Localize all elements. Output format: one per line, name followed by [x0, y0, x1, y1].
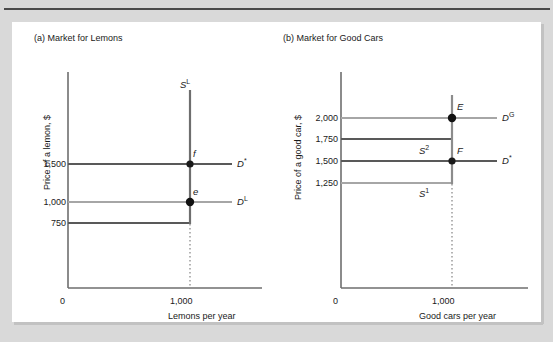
panel-b-xtick-1000: 1,000 [432, 296, 455, 306]
panel-b-point-label-E: E [457, 101, 463, 112]
panel-b-demand-good-label: DG [502, 111, 514, 123]
panel-b-point-label-F: F [457, 145, 463, 156]
panel-b-supply2-label: S2 [419, 144, 429, 156]
panel-b-supply1-label: S1 [419, 187, 429, 199]
panel-b-point-E [448, 114, 456, 122]
panel-b-x-axis-title: Good cars per year [419, 311, 496, 321]
panel-b-demand-star-label: D* [502, 154, 512, 166]
panel-b-plot [0, 0, 553, 342]
panel-b-point-F [448, 157, 455, 164]
figure-root: (a) Market for Lemons Price of a lemon, … [0, 0, 553, 342]
panel-b-origin-label: 0 [333, 296, 338, 306]
